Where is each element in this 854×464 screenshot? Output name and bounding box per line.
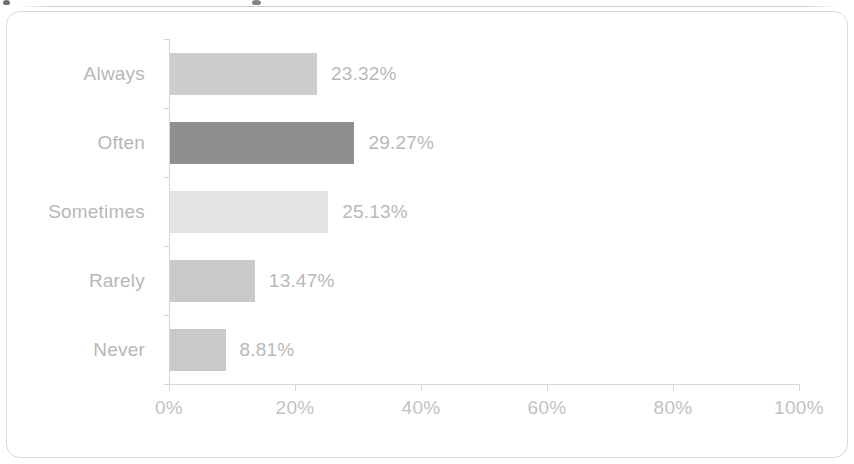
- bar-row: 29.27%: [170, 108, 800, 177]
- category-label: Often: [7, 108, 159, 177]
- chart-frame: AlwaysOftenSometimesRarelyNever 23.32%29…: [6, 11, 848, 458]
- clipped-title-artifacts: [0, 0, 854, 10]
- x-axis-tick-label: 60%: [528, 397, 567, 419]
- category-label: Always: [7, 39, 159, 108]
- x-axis-tick: [421, 384, 422, 391]
- bar-row: 25.13%: [170, 177, 800, 246]
- x-axis-tick-label: 0%: [155, 397, 183, 419]
- bar-never[interactable]: [170, 329, 226, 371]
- x-axis-tick: [169, 380, 170, 391]
- x-axis-line: [169, 384, 800, 385]
- x-axis-tick-label: 80%: [654, 397, 693, 419]
- bars-container: 23.32%29.27%25.13%13.47%8.81%: [170, 39, 800, 384]
- x-axis-tick-label: 100%: [774, 397, 824, 419]
- bar-value-label: 8.81%: [240, 339, 295, 361]
- bar-rarely[interactable]: [170, 260, 255, 302]
- bar-row: 8.81%: [170, 315, 800, 384]
- bar-value-label: 13.47%: [269, 270, 335, 292]
- clipped-glyph-fragment-center: [252, 0, 261, 5]
- x-axis-tick: [547, 384, 548, 391]
- x-axis-tick: [799, 384, 800, 391]
- category-label: Never: [7, 315, 159, 384]
- bar-row: 13.47%: [170, 246, 800, 315]
- clipped-rule-line: [18, 6, 838, 7]
- x-axis-tick-label: 20%: [276, 397, 315, 419]
- x-axis-tick-labels: 0%20%40%60%80%100%: [169, 397, 800, 427]
- x-axis-tick: [295, 384, 296, 391]
- clipped-glyph-fragment-left: [3, 0, 10, 5]
- bar-often[interactable]: [170, 122, 354, 164]
- bar-value-label: 29.27%: [368, 132, 434, 154]
- x-axis-tick: [673, 384, 674, 391]
- category-label: Sometimes: [7, 177, 159, 246]
- bar-always[interactable]: [170, 53, 317, 95]
- bar-row: 23.32%: [170, 39, 800, 108]
- bar-value-label: 25.13%: [342, 201, 408, 223]
- bar-sometimes[interactable]: [170, 191, 328, 233]
- plot-area: AlwaysOftenSometimesRarelyNever 23.32%29…: [7, 12, 849, 459]
- category-axis-labels: AlwaysOftenSometimesRarelyNever: [7, 39, 159, 384]
- x-axis-tick-label: 40%: [402, 397, 441, 419]
- category-label: Rarely: [7, 246, 159, 315]
- bar-value-label: 23.32%: [331, 63, 397, 85]
